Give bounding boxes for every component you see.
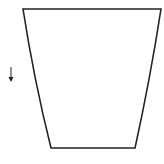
diagram-canvas — [0, 0, 164, 164]
caption — [0, 158, 164, 164]
down-arrow-icon — [9, 67, 14, 82]
vessel-outline — [23, 9, 161, 148]
